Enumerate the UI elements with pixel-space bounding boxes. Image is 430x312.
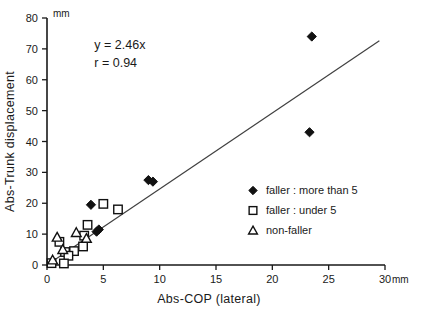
axis-labels-group: Abs-COP (lateral)Abs-Trunk displacement (3, 71, 261, 306)
x-tick-label: 0 (44, 273, 50, 285)
x-axis-title: Abs-COP (lateral) (157, 292, 261, 306)
y-axis-unit: mm (53, 8, 70, 19)
y-tick-label: 20 (26, 197, 38, 209)
y-tick-label: 10 (26, 228, 38, 240)
legend-item-label: faller : under 5 (266, 204, 336, 216)
x-tick-label: 30 (379, 273, 391, 285)
y-tick-label: 70 (26, 43, 38, 55)
y-tick-label: 0 (32, 259, 38, 271)
annotations-group: y = 2.46xr = 0.94 (94, 38, 146, 71)
chart-figure: 01020304050607080051015202530mmmm Abs-CO… (0, 0, 430, 312)
marker-open-square (83, 221, 91, 229)
legend-item: faller : under 5 (249, 204, 336, 216)
marker-open-square (60, 259, 68, 267)
scatter-plot-canvas: 01020304050607080051015202530mmmm Abs-CO… (0, 0, 430, 312)
marker-filled-diamond (307, 32, 316, 41)
y-tick-label: 40 (26, 136, 38, 148)
x-axis-unit: mm (392, 274, 409, 285)
x-tick-label: 25 (323, 273, 335, 285)
marker-open-triangle (249, 226, 258, 234)
annotation-text: y = 2.46x (94, 38, 146, 52)
annotation-text: r = 0.94 (94, 56, 137, 70)
x-tick-label: 5 (100, 273, 106, 285)
marker-open-square (249, 207, 257, 215)
marker-open-square (99, 200, 107, 208)
x-tick-label: 10 (154, 273, 166, 285)
legend-item-label: non-faller (266, 224, 312, 236)
marker-open-square (79, 242, 87, 250)
y-axis-title: Abs-Trunk displacement (3, 71, 17, 212)
x-tick-label: 15 (210, 273, 222, 285)
y-tick-label: 50 (26, 105, 38, 117)
legend-item: non-faller (249, 224, 313, 236)
x-tick-label: 20 (266, 273, 278, 285)
marker-open-square (114, 205, 122, 213)
marker-filled-diamond (305, 128, 314, 137)
legend-item-label: faller : more than 5 (266, 184, 358, 196)
legend: faller : more than 5faller : under 5non-… (249, 184, 358, 236)
marker-filled-diamond (86, 200, 95, 209)
y-tick-label: 60 (26, 74, 38, 86)
y-tick-label: 30 (26, 166, 38, 178)
legend-item: faller : more than 5 (249, 184, 358, 196)
marker-open-triangle (52, 232, 62, 241)
marker-filled-diamond (249, 186, 257, 194)
y-tick-label: 80 (26, 12, 38, 24)
